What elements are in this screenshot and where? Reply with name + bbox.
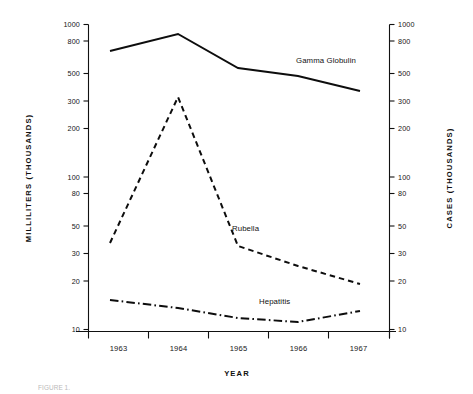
right-tick-label-200: 200 xyxy=(398,124,410,133)
y-left-axis-title: MILLILITERS (THOUSANDS) xyxy=(24,114,33,243)
left-tick-label-100: 100 xyxy=(68,173,80,182)
y-right-axis-title: CASES (THOUSANDS) xyxy=(445,128,454,229)
figure-container: 1000 800 500 300 200 100 80 50 30 20 10 xyxy=(0,0,473,394)
series-line-hepatitis xyxy=(110,300,360,322)
x-tick-label-1965: 1965 xyxy=(230,344,248,353)
right-tick-label-50: 50 xyxy=(398,222,406,231)
left-tick-label-300: 300 xyxy=(68,97,80,106)
figure-caption: FIGURE 1. xyxy=(38,384,438,391)
right-tick-label-80: 80 xyxy=(398,189,406,198)
left-tick-label-20: 20 xyxy=(72,277,80,286)
series-label-rubella: Rubella xyxy=(232,224,260,233)
right-axis: 1000 800 500 300 200 100 80 50 30 20 10 xyxy=(390,20,415,339)
left-axis: 1000 800 500 300 200 100 80 50 30 20 10 xyxy=(63,20,88,334)
series-label-hepatitis: Hepatitis xyxy=(259,297,290,306)
x-axis-title: YEAR xyxy=(224,369,250,378)
x-tick-label-1964: 1964 xyxy=(170,344,188,353)
series-label-gamma-globulin: Gamma Globulin xyxy=(296,56,356,65)
line-chart: 1000 800 500 300 200 100 80 50 30 20 10 xyxy=(0,0,473,394)
right-tick-label-10: 10 xyxy=(398,325,406,334)
left-tick-label-200: 200 xyxy=(68,124,80,133)
x-tick-label-1966: 1966 xyxy=(290,344,308,353)
left-tick-label-80: 80 xyxy=(72,189,80,198)
x-tick-label-1967: 1967 xyxy=(350,344,368,353)
left-tick-label-10: 10 xyxy=(72,325,80,334)
left-tick-label-500: 500 xyxy=(68,69,80,78)
left-tick-label-30: 30 xyxy=(72,249,80,258)
x-tick-label-1963: 1963 xyxy=(110,344,128,353)
left-tick-label-800: 800 xyxy=(68,37,80,46)
right-tick-label-30: 30 xyxy=(398,249,406,258)
series-line-rubella xyxy=(110,97,360,284)
x-axis: 1963 1964 1965 1966 1967 xyxy=(76,332,396,354)
left-tick-label-50: 50 xyxy=(72,222,80,231)
right-tick-label-300: 300 xyxy=(398,97,410,106)
right-tick-label-800: 800 xyxy=(398,37,410,46)
right-tick-label-100: 100 xyxy=(398,173,410,182)
right-tick-label-500: 500 xyxy=(398,69,410,78)
right-tick-label-1000: 1000 xyxy=(398,20,415,29)
left-tick-label-1000: 1000 xyxy=(63,20,80,29)
right-tick-label-20: 20 xyxy=(398,277,406,286)
